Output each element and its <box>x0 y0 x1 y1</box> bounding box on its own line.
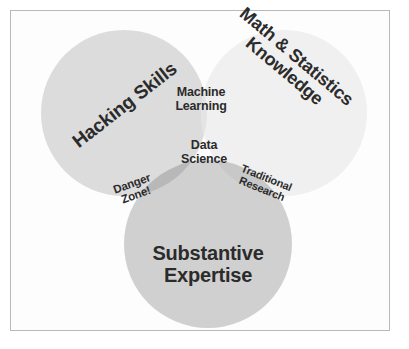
venn-circles-graphic <box>0 0 409 349</box>
venn-diagram-canvas: Hacking Skills Math & Statistics Knowled… <box>0 0 409 349</box>
